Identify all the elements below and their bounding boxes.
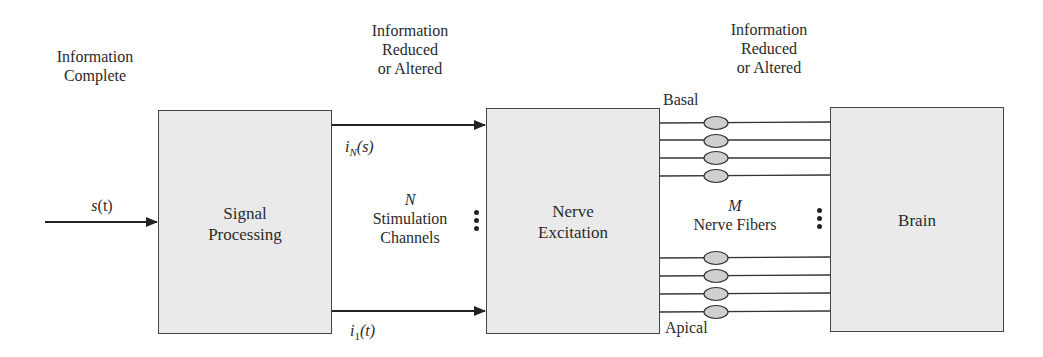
info-complete-label: Information Complete <box>40 47 150 85</box>
fiber-node-icon <box>704 135 728 148</box>
input-signal-label: s(t) <box>82 196 122 215</box>
channel-count-symbol: N <box>350 190 470 209</box>
channels-ellipsis-icon <box>474 210 480 234</box>
fiber-count-symbol: M <box>670 196 800 215</box>
signal-arg: (s) <box>357 138 374 155</box>
block-label-line: Brain <box>831 210 1003 231</box>
fiber-node-icon <box>704 152 728 165</box>
fibers-ellipsis-icon <box>817 208 823 232</box>
nerve-excitation-block: Nerve Excitation <box>486 108 660 334</box>
fiber-group-apical <box>659 257 830 312</box>
annotation-line: or Altered <box>350 59 470 78</box>
fiber-group-basal <box>659 122 830 176</box>
brain-block: Brain <box>830 107 1004 332</box>
signal-arg: (t) <box>98 197 113 214</box>
nerve-fibers-label: M Nerve Fibers <box>670 196 800 234</box>
signal-arg: (t) <box>360 322 375 339</box>
annotation-line: Information <box>709 20 829 39</box>
stimulation-channels-label: N Stimulation Channels <box>350 190 470 247</box>
fiber-ellipses-basal <box>704 117 728 183</box>
fiber-node-icon <box>704 170 728 183</box>
fiber-ellipses-apical <box>704 252 728 319</box>
bottom-channel-label: i1(t) <box>350 321 400 346</box>
block-label-line: Signal <box>159 203 331 224</box>
annotation-line: or Altered <box>709 58 829 77</box>
fiber-node-icon <box>704 270 728 283</box>
fiber-node-icon <box>704 252 728 265</box>
apical-label: Apical <box>665 318 708 337</box>
fiber-node-icon <box>704 306 728 319</box>
signal-processing-label: Signal Processing <box>159 203 331 245</box>
block-label-line: Processing <box>159 224 331 245</box>
fiber-node-icon <box>704 117 728 130</box>
annotation-line: Information <box>40 47 150 66</box>
fiber-node-icon <box>704 288 728 301</box>
block-label-line: Excitation <box>487 222 659 243</box>
brain-label: Brain <box>831 210 1003 231</box>
channel-label-line: Channels <box>350 228 470 247</box>
nerve-excitation-label: Nerve Excitation <box>487 201 659 243</box>
annotation-line: Reduced <box>709 39 829 58</box>
annotation-line: Reduced <box>350 40 470 59</box>
info-reduced-label-2: Information Reduced or Altered <box>709 20 829 77</box>
basal-label: Basal <box>663 90 699 109</box>
annotation-line: Complete <box>40 66 150 85</box>
channel-label-line: Stimulation <box>350 209 470 228</box>
signal-subscript: N <box>349 146 356 158</box>
annotation-line: Information <box>350 21 470 40</box>
block-label-line: Nerve <box>487 201 659 222</box>
fiber-label: Nerve Fibers <box>670 215 800 234</box>
top-channel-label: iN(s) <box>345 137 395 162</box>
info-reduced-label-1: Information Reduced or Altered <box>350 21 470 78</box>
signal-processing-block: Signal Processing <box>158 110 332 334</box>
